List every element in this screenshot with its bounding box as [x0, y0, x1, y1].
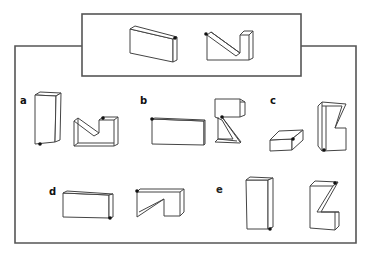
- marker-dot: [150, 117, 154, 121]
- reference-box: [82, 14, 301, 76]
- marker-dot: [322, 148, 326, 152]
- option-d[interactable]: d: [49, 186, 184, 220]
- option-a-tall-block: [35, 92, 61, 146]
- option-b-z-block: [215, 99, 245, 143]
- option-d-notched-block: [135, 189, 184, 217]
- marker-dot: [101, 116, 105, 120]
- option-label-d: d: [49, 186, 56, 197]
- option-a[interactable]: a: [20, 92, 118, 146]
- marker-dot: [291, 137, 295, 141]
- marker-dot: [38, 142, 42, 146]
- marker-dot: [268, 227, 272, 231]
- option-c-slab: [270, 130, 303, 151]
- option-label-b: b: [140, 95, 147, 106]
- marker-dot: [173, 36, 177, 40]
- reference-block-shape: [130, 26, 177, 62]
- option-a-notched-block: [74, 116, 118, 146]
- marker-dot: [204, 32, 208, 36]
- option-d-wide-block: [63, 191, 113, 220]
- marker-dot: [135, 189, 139, 193]
- option-b[interactable]: b: [140, 95, 245, 145]
- puzzle-figure: a b c: [0, 0, 370, 255]
- marker-dot: [333, 181, 337, 185]
- option-e-z-block: [310, 181, 339, 230]
- option-label-e: e: [216, 184, 223, 195]
- option-label-a: a: [20, 95, 27, 106]
- option-e[interactable]: e: [216, 177, 339, 231]
- option-b-flat-block: [150, 117, 205, 145]
- option-c[interactable]: c: [270, 95, 346, 152]
- marker-dot: [220, 115, 224, 119]
- option-label-c: c: [270, 95, 276, 106]
- marker-dot: [108, 216, 112, 220]
- option-e-tall-block: [246, 177, 273, 231]
- option-c-notched-upright: [318, 102, 346, 152]
- reference-notched-shape: [204, 31, 253, 60]
